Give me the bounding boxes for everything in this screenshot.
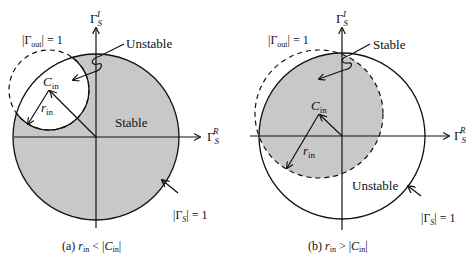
real-axis-label: ΓSR xyxy=(454,125,467,145)
unit-circle-label: |ΓS| = 1 xyxy=(421,211,456,227)
unstable-label: Unstable xyxy=(352,178,398,193)
stable-label: Stable xyxy=(115,115,148,130)
caption-b: (b) rin > |Cin| xyxy=(308,239,368,254)
panel-b: ΓSI ΓSR |Γout| = 1 Stable Unstable Cin r… xyxy=(250,9,467,254)
unit-circle-label: |ΓS| = 1 xyxy=(173,208,208,224)
unit-circle-pointer xyxy=(408,186,421,196)
imag-axis-label: ΓSI xyxy=(336,9,349,28)
unstable-label: Unstable xyxy=(126,36,172,51)
gamma-out-label: |Γout| = 1 xyxy=(22,33,63,49)
stability-circles-figure: ΓSI ΓSR |Γout| = 1 Unstable Stable Cin r… xyxy=(0,0,469,258)
real-axis-label: ΓSR xyxy=(207,126,220,146)
gamma-out-label: |Γout| = 1 xyxy=(268,33,309,49)
unit-circle-pointer xyxy=(162,180,178,193)
imag-axis-label: ΓSI xyxy=(90,9,103,28)
stable-label: Stable xyxy=(373,37,406,52)
caption-a: (a) rin < |Cin| xyxy=(62,239,121,254)
panel-a: ΓSI ΓSR |Γout| = 1 Unstable Stable Cin r… xyxy=(9,9,220,254)
